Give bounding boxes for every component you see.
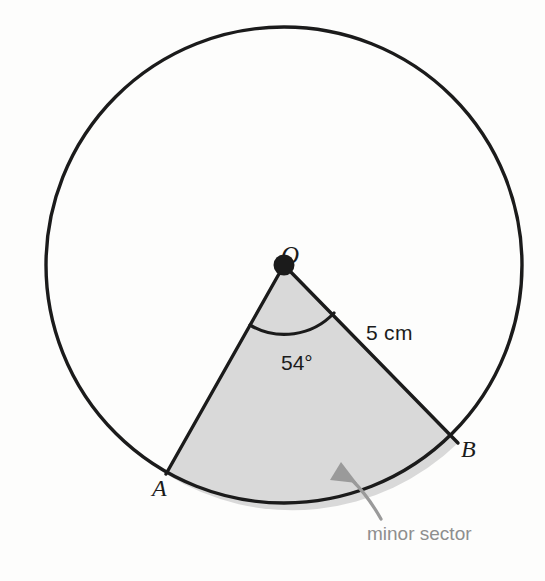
shaded-minor-sector: [166, 265, 458, 510]
figure-canvas: O A B 5 cm 54° minor sector: [0, 0, 545, 581]
circle-sector-diagram: [0, 0, 545, 581]
radius-measurement-label: 5 cm: [366, 322, 413, 343]
central-angle-label: 54°: [281, 352, 313, 373]
center-point-label-o: O: [281, 243, 299, 268]
point-label-b: B: [461, 437, 476, 461]
point-label-a: A: [152, 476, 167, 500]
minor-sector-annotation-label: minor sector: [367, 524, 472, 543]
